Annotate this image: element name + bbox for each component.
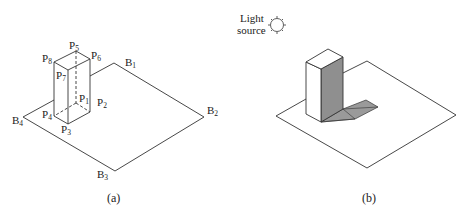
caption-b: (b) <box>362 191 376 205</box>
light-source-label-1: Light <box>240 12 264 24</box>
svg-text:B3: B3 <box>97 168 108 182</box>
figure-b: Light source (b) <box>237 12 456 205</box>
svg-text:B1: B1 <box>125 56 136 70</box>
box-a <box>54 51 90 124</box>
diagram-canvas: P5 P6 P8 P7 P1 P2 P4 P3 B1 B2 B3 B4 (a) … <box>0 0 473 220</box>
svg-text:B2: B2 <box>207 104 218 118</box>
svg-text:P3: P3 <box>61 123 71 137</box>
svg-text:P1: P1 <box>79 92 89 106</box>
svg-text:P4: P4 <box>42 108 52 122</box>
svg-text:P6: P6 <box>91 49 101 63</box>
svg-text:B4: B4 <box>12 114 23 128</box>
svg-text:P7: P7 <box>56 69 66 83</box>
sun-icon <box>268 16 286 34</box>
svg-text:P8: P8 <box>42 52 52 66</box>
light-source-label-2: source <box>237 24 266 36</box>
ground-plane-b <box>276 61 456 168</box>
svg-text:P5: P5 <box>69 39 79 53</box>
box-b <box>306 49 343 122</box>
caption-a: (a) <box>107 191 120 205</box>
svg-text:P2: P2 <box>97 96 107 110</box>
figure-a: P5 P6 P8 P7 P1 P2 P4 P3 B1 B2 B3 B4 (a) <box>12 39 218 205</box>
